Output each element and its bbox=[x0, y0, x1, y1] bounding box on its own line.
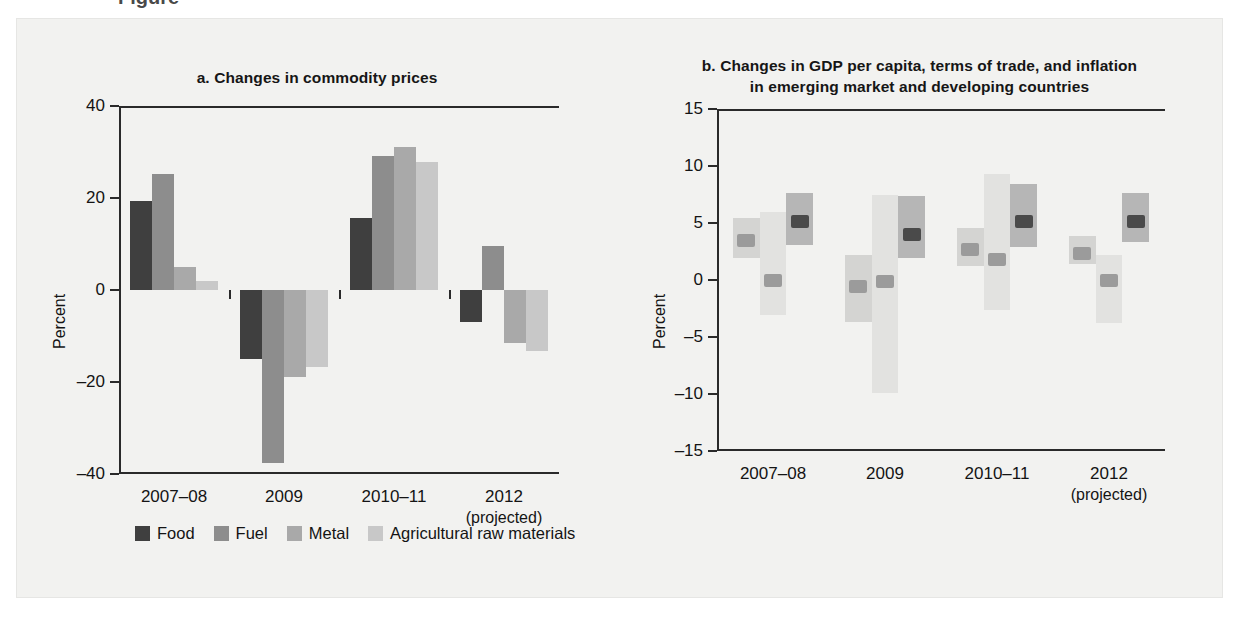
chart-b-y-tick-label: –10 bbox=[675, 384, 703, 404]
chart-a-legend-label: Agricultural raw materials bbox=[390, 524, 575, 543]
chart-a-legend-item: Food bbox=[135, 524, 195, 543]
chart-b-zero-line bbox=[717, 109, 1165, 111]
chart-a-y-tick-label: 40 bbox=[86, 96, 105, 116]
chart-a-group-tick bbox=[229, 290, 231, 299]
chart-a-zero-line bbox=[119, 106, 559, 108]
chart-a-bar bbox=[284, 290, 306, 377]
chart-a-commodity-prices: a. Changes in commodity prices Percent 4… bbox=[17, 19, 617, 597]
chart-b-y-tick bbox=[708, 450, 717, 452]
chart-a-bar bbox=[460, 290, 482, 322]
chart-b-y-tick-label: –5 bbox=[684, 327, 703, 347]
chart-b-median-marker bbox=[849, 280, 867, 293]
chart-a-y-tick bbox=[110, 473, 119, 475]
chart-a-bar bbox=[174, 267, 196, 290]
chart-b-median-marker bbox=[1100, 274, 1118, 287]
chart-a-legend-label: Metal bbox=[309, 524, 349, 543]
chart-a-y-tick-label: –40 bbox=[77, 464, 105, 484]
chart-a-bar bbox=[262, 290, 284, 463]
chart-b-range-box bbox=[872, 195, 899, 393]
chart-b-category-sublabel: (projected) bbox=[1071, 484, 1147, 505]
chart-a-bar bbox=[416, 162, 438, 290]
chart-b-x-axis bbox=[717, 449, 1165, 451]
chart-a-legend-swatch bbox=[135, 526, 150, 541]
chart-a-group-tick bbox=[339, 290, 341, 299]
chart-b-y-tick-label: 10 bbox=[684, 156, 703, 176]
chart-b-y-tick-label: 15 bbox=[684, 99, 703, 119]
chart-a-legend-item: Fuel bbox=[214, 524, 268, 543]
chart-a-y-tick bbox=[110, 105, 119, 107]
chart-b-median-marker bbox=[988, 253, 1006, 266]
chart-a-y-tick bbox=[110, 197, 119, 199]
chart-a-y-axis-title: Percent bbox=[51, 294, 69, 349]
chart-a-legend-swatch bbox=[214, 526, 229, 541]
chart-b-range-box bbox=[984, 174, 1011, 310]
chart-a-category-label: 2009 bbox=[265, 486, 303, 507]
chart-b-y-tick-label: 0 bbox=[694, 270, 703, 290]
chart-b-median-marker bbox=[903, 228, 921, 241]
chart-b-median-marker bbox=[961, 243, 979, 256]
chart-b-median-marker bbox=[1127, 215, 1145, 228]
chart-a-x-axis bbox=[119, 472, 559, 474]
top-cut-caption: Figure bbox=[0, 0, 1235, 14]
chart-a-bar bbox=[240, 290, 262, 359]
chart-a-legend-label: Food bbox=[157, 524, 195, 543]
chart-b-range-box bbox=[1096, 255, 1123, 323]
chart-a-y-tick bbox=[110, 381, 119, 383]
chart-b-category-label: 2009 bbox=[866, 463, 904, 484]
chart-b-median-marker bbox=[764, 274, 782, 287]
chart-a-category-label: 2012(projected) bbox=[466, 486, 542, 528]
chart-a-legend: FoodFuelMetalAgricultural raw materials bbox=[135, 524, 605, 543]
chart-a-bar bbox=[372, 156, 394, 290]
chart-b-y-tick bbox=[708, 336, 717, 338]
chart-b-median-marker bbox=[1073, 247, 1091, 260]
chart-b-median-marker bbox=[737, 234, 755, 247]
chart-b-gdp-terms-inflation: b. Changes in GDP per capita, terms of t… bbox=[617, 19, 1222, 597]
chart-a-plot-area: 40200–20–40 bbox=[119, 106, 559, 474]
chart-b-category-label: 2010–11 bbox=[965, 463, 1030, 484]
chart-b-title: b. Changes in GDP per capita, terms of t… bbox=[617, 55, 1222, 97]
chart-a-bar bbox=[130, 201, 152, 290]
chart-a-legend-swatch bbox=[368, 526, 383, 541]
chart-b-y-tick bbox=[708, 222, 717, 224]
chart-a-legend-item: Metal bbox=[287, 524, 349, 543]
chart-a-bar bbox=[350, 218, 372, 290]
chart-a-group-tick bbox=[449, 290, 451, 299]
chart-b-median-marker bbox=[876, 275, 894, 288]
chart-a-y-tick bbox=[110, 289, 119, 291]
chart-a-title: a. Changes in commodity prices bbox=[17, 67, 617, 88]
chart-b-title-line2: in emerging market and developing countr… bbox=[750, 78, 1089, 95]
chart-b-y-axis-title: Percent bbox=[651, 294, 669, 349]
chart-a-bar bbox=[152, 174, 174, 290]
chart-a-bar bbox=[196, 281, 218, 290]
chart-b-y-tick bbox=[708, 108, 717, 110]
chart-b-category-label: 2012(projected) bbox=[1071, 463, 1147, 505]
chart-b-y-tick bbox=[708, 393, 717, 395]
chart-b-y-tick-label: –15 bbox=[675, 441, 703, 461]
chart-a-bar bbox=[482, 246, 504, 290]
chart-a-legend-label: Fuel bbox=[236, 524, 268, 543]
chart-a-category-label: 2007–08 bbox=[141, 486, 207, 507]
chart-b-median-marker bbox=[791, 215, 809, 228]
chart-a-group-tick bbox=[119, 290, 121, 299]
chart-b-range-box bbox=[760, 212, 787, 316]
chart-b-y-tick bbox=[708, 279, 717, 281]
chart-b-y-tick-label: 5 bbox=[694, 213, 703, 233]
top-cut-caption-text: Figure bbox=[118, 0, 179, 9]
chart-b-title-line1: b. Changes in GDP per capita, terms of t… bbox=[702, 57, 1137, 74]
chart-b-y-tick bbox=[708, 165, 717, 167]
chart-a-legend-swatch bbox=[287, 526, 302, 541]
chart-a-y-tick-label: –20 bbox=[77, 372, 105, 392]
chart-a-bar bbox=[526, 290, 548, 351]
figure-panel: a. Changes in commodity prices Percent 4… bbox=[16, 18, 1223, 598]
chart-a-category-label: 2010–11 bbox=[362, 486, 427, 507]
chart-b-y-axis bbox=[717, 109, 719, 451]
chart-a-bar bbox=[306, 290, 328, 367]
chart-a-bar bbox=[504, 290, 526, 343]
chart-a-y-tick-label: 20 bbox=[86, 188, 105, 208]
chart-a-bar bbox=[394, 147, 416, 290]
chart-b-range-box bbox=[898, 196, 925, 259]
figure-root: Figure a. Changes in commodity prices Pe… bbox=[0, 0, 1235, 619]
chart-b-plot-area: 151050–5–10–15 bbox=[717, 109, 1165, 451]
chart-b-category-label: 2007–08 bbox=[740, 463, 806, 484]
chart-a-legend-item: Agricultural raw materials bbox=[368, 524, 575, 543]
